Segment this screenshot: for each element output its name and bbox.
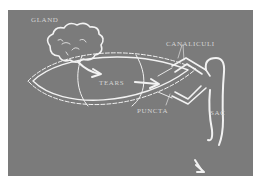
label-gland: GLAND bbox=[31, 16, 59, 24]
label-tears: TEARS bbox=[99, 79, 124, 87]
canaliculi-shape bbox=[158, 58, 210, 104]
label-sac: SAC bbox=[210, 109, 225, 117]
tear-drainage-diagram bbox=[0, 0, 263, 183]
label-canaliculi: CANALICULI bbox=[166, 40, 215, 48]
label-puncta: PUNCTA bbox=[137, 107, 168, 115]
gland-shape bbox=[48, 23, 103, 62]
